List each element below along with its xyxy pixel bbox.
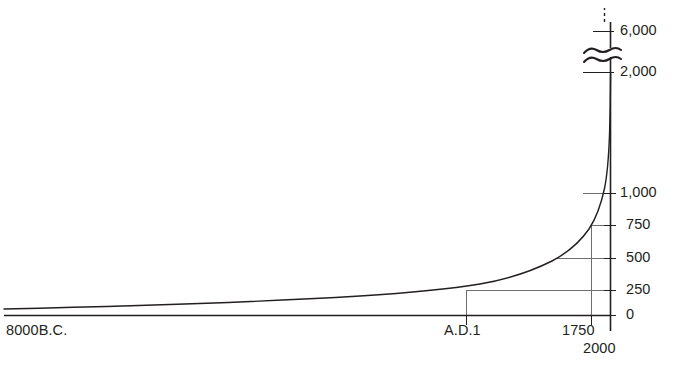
y-axis-label-750: 750 [626,216,651,232]
y-axis-label-6000: 6,000 [620,22,657,38]
axis-break-symbol [584,48,621,62]
x-axis-label-1750: 1750 [562,322,595,338]
population-growth-chart: 6,000 2,000 1,000 750 500 250 0 8000B.C.… [0,0,674,374]
x-axis-label-2000: 2000 [583,340,616,356]
population-curve [4,74,611,309]
vertical-gridlines [467,225,592,315]
y-axis-label-1000: 1,000 [620,184,657,200]
y-axis-label-0: 0 [626,306,634,322]
x-axis-label-8000bc: 8000B.C. [6,322,67,338]
horizontal-gridlines [466,194,611,291]
y-axis-label-250: 250 [626,281,651,297]
y-axis-label-500: 500 [626,249,651,265]
y-axis-label-2000: 2,000 [620,63,657,79]
x-axis-label-ad1: A.D.1 [444,322,481,338]
chart-canvas [0,0,674,374]
